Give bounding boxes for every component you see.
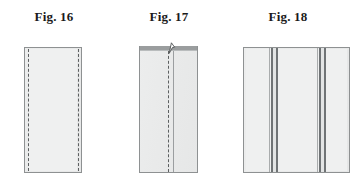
fig18-fabric-panel (243, 47, 350, 173)
figure-16-drawing (24, 47, 82, 173)
fig16-right-stitch-line (78, 49, 79, 171)
fig18-left-pleat-band (269, 48, 279, 172)
fig16-left-stitch-line (28, 49, 29, 171)
fig18-left-band-rule-fold (276, 48, 278, 172)
figure-18-drawing (243, 47, 350, 173)
fig17-centre-stitch-line (168, 51, 169, 172)
figure-caption-17: Fig. 17 (133, 9, 205, 25)
fig16-fabric-panel (24, 47, 82, 173)
figure-sheet: Fig. 16 Fig. 17 Fig. 18 (0, 0, 361, 187)
fig18-right-band-rule-outer (317, 48, 318, 172)
figure-caption-16: Fig. 16 (18, 9, 90, 25)
fig18-left-band-rule-outer (269, 48, 270, 172)
fig17-fold-edge-line (173, 51, 174, 172)
figure-17-drawing (139, 42, 201, 176)
figure-caption-18: Fig. 18 (252, 9, 324, 25)
fig18-right-band-rule-fold (324, 48, 326, 172)
fig18-right-pleat-band (317, 48, 327, 172)
